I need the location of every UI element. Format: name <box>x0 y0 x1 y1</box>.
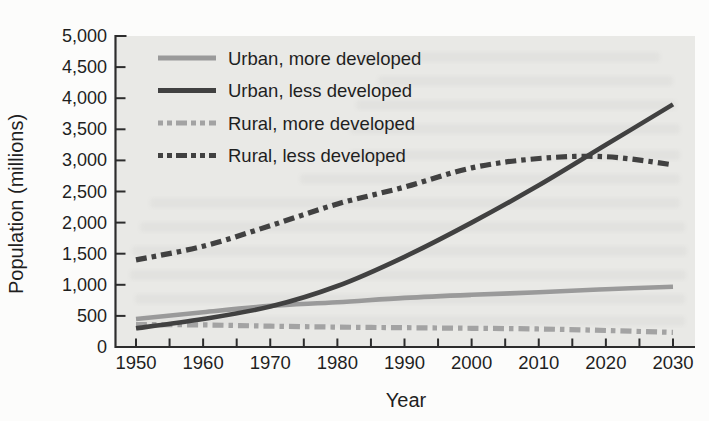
y-tick-label: 1,000 <box>62 275 107 295</box>
x-tick-label: 1950 <box>115 352 156 373</box>
y-tick-label: 1,500 <box>62 244 107 264</box>
legend-label: Urban, more developed <box>228 48 421 69</box>
population-trends-figure: 05001,0001,5002,0002,5003,0003,5004,0004… <box>0 0 709 421</box>
x-tick-label: 1980 <box>317 352 358 373</box>
bleed-text-row <box>130 270 686 280</box>
x-tick-label: 2000 <box>451 352 492 373</box>
bleed-text-row <box>140 222 685 232</box>
y-tick-label: 3,000 <box>62 150 107 170</box>
bleed-text-row <box>378 76 673 86</box>
y-tick-label: 0 <box>97 337 107 357</box>
y-tick-label: 2,000 <box>62 213 107 233</box>
y-tick-label: 4,500 <box>62 57 107 77</box>
bleed-text-row <box>300 174 680 184</box>
x-tick-label: 2010 <box>518 352 559 373</box>
x-tick-label: 1990 <box>384 352 425 373</box>
chart-canvas: 05001,0001,5002,0002,5003,0003,5004,0004… <box>0 0 709 421</box>
y-tick-label: 5,000 <box>62 26 107 46</box>
legend-label: Rural, more developed <box>228 113 415 134</box>
x-tick-label: 1970 <box>250 352 291 373</box>
bleed-text-row <box>356 100 676 110</box>
legend-label: Urban, less developed <box>228 80 412 101</box>
x-tick-label: 2030 <box>652 352 693 373</box>
y-tick-label: 2,500 <box>62 182 107 202</box>
legend-label: Rural, less developed <box>228 145 406 166</box>
y-tick-label: 3,500 <box>62 119 107 139</box>
y-axis-title: Population (millions) <box>5 114 27 294</box>
x-tick-label: 2020 <box>585 352 626 373</box>
y-tick-label: 500 <box>77 306 107 326</box>
y-tick-label: 4,000 <box>62 88 107 108</box>
x-axis-title: Year <box>386 389 427 411</box>
x-tick-label: 1960 <box>183 352 224 373</box>
bleed-text-row <box>150 198 680 208</box>
